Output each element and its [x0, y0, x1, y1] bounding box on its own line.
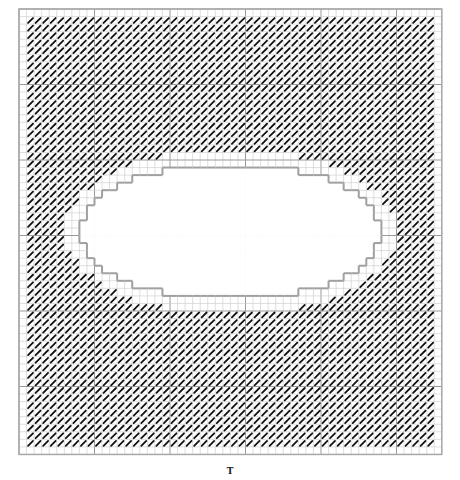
chart-caption: T — [0, 466, 460, 476]
stitch-chart — [0, 0, 460, 480]
